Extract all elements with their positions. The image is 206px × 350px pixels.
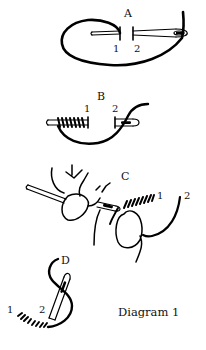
- thread-icon: [48, 259, 72, 327]
- panel-b-point-1: 1: [84, 103, 90, 114]
- panel-b-point-2: 2: [112, 103, 118, 114]
- panel-a-point-2: 2: [134, 43, 140, 54]
- needle-icon: [26, 185, 66, 203]
- panel-c-point-1: 1: [157, 190, 163, 201]
- thread-twisted-icon: [124, 195, 154, 208]
- panel-a-point-1: 1: [113, 43, 119, 54]
- thread-icon: [143, 197, 180, 236]
- stitch-diagram: A 1 2 B 1 2: [0, 0, 206, 350]
- finger-icon: [116, 211, 142, 262]
- panel-d-point-1: 1: [7, 304, 13, 315]
- needle-wrapped-icon: [47, 117, 89, 128]
- hand-icon: [52, 165, 111, 245]
- needle-left-icon: [91, 27, 120, 40]
- thread-twisted-icon: [18, 313, 47, 327]
- needle-right-icon: [133, 27, 187, 40]
- panel-d-point-2: 2: [39, 304, 45, 315]
- panel-d: D 1 2: [7, 254, 72, 327]
- panel-a-label: A: [123, 7, 133, 20]
- panel-c: C 1 2: [26, 165, 190, 262]
- panel-c-label: C: [121, 170, 129, 183]
- panel-b-label: B: [97, 90, 105, 103]
- panel-c-point-2: 2: [184, 190, 190, 201]
- panel-d-label: D: [61, 254, 70, 267]
- diagram-caption: Diagram 1: [118, 305, 179, 319]
- panel-b: B 1 2: [47, 90, 149, 144]
- thread-loop-icon: [62, 12, 184, 65]
- panel-a: A 1 2: [62, 7, 188, 65]
